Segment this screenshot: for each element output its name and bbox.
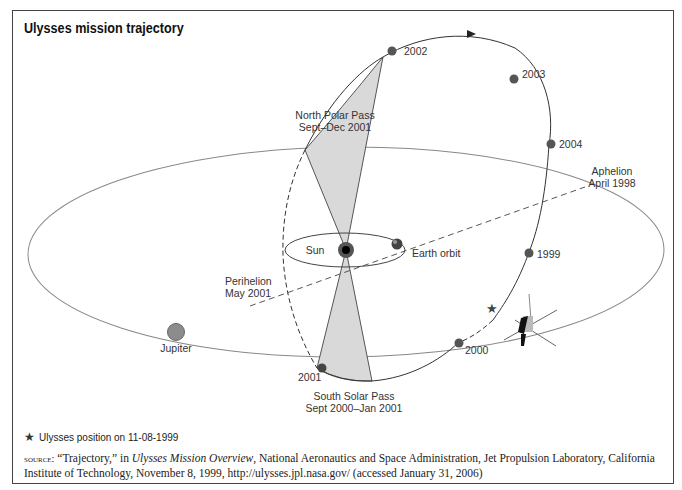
north-polar-pass-label-2: Sept–Dec 2001 bbox=[299, 121, 372, 133]
perihelion-label-2: May 2001 bbox=[225, 287, 271, 299]
year-label-2001: 2001 bbox=[298, 371, 322, 383]
earth-highlight bbox=[393, 240, 397, 244]
year-label-2000: 2000 bbox=[465, 344, 489, 356]
south-solar-pass-label-2: Sept 2000–Jan 2001 bbox=[306, 402, 403, 414]
year-marker-2004 bbox=[547, 140, 556, 149]
jupiter-icon bbox=[168, 324, 185, 341]
south-solar-pass-wedge bbox=[317, 250, 372, 381]
legend: ★ Ulysses position on 11-08-1999 bbox=[24, 430, 178, 444]
source-title: Ulysses Mission Overview bbox=[132, 452, 253, 464]
earth-icon bbox=[392, 239, 403, 250]
year-marker-2000 bbox=[455, 339, 464, 348]
earth-orbit-label: Earth orbit bbox=[412, 247, 461, 259]
south-solar-pass-label-1: South Solar Pass bbox=[313, 390, 394, 402]
trajectory-diagram: ★ North Polar Pass Sept–Dec 2001 South S… bbox=[0, 0, 682, 490]
jupiter-label: Jupiter bbox=[160, 342, 192, 354]
year-label-2003: 2003 bbox=[522, 68, 546, 80]
north-polar-pass-wedge bbox=[305, 57, 383, 250]
year-marker-2002 bbox=[388, 47, 397, 56]
year-label-2002: 2002 bbox=[404, 45, 428, 57]
north-polar-pass-label-1: North Polar Pass bbox=[295, 109, 374, 121]
source-part1: “Trajectory,” in bbox=[54, 452, 131, 464]
aphelion-label-1: Aphelion bbox=[592, 165, 633, 177]
year-label-1999: 1999 bbox=[537, 248, 561, 260]
legend-star-icon: ★ bbox=[24, 430, 35, 444]
ulysses-position-star-icon: ★ bbox=[486, 301, 498, 316]
aphelion-label-2: April 1998 bbox=[588, 177, 635, 189]
legend-text: Ulysses position on 11-08-1999 bbox=[39, 432, 178, 443]
sun-label: Sun bbox=[306, 244, 325, 256]
source-prefix: source: bbox=[24, 453, 54, 464]
year-marker-1999 bbox=[525, 249, 534, 258]
ulysses-spacecraft-icon bbox=[504, 294, 557, 346]
trajectory-dashed-right bbox=[458, 320, 493, 343]
year-marker-2003 bbox=[510, 75, 519, 84]
trajectory-dashed-left bbox=[283, 150, 317, 368]
perihelion-label-1: Perihelion bbox=[225, 275, 272, 287]
year-label-2004: 2004 bbox=[559, 138, 583, 150]
sun-core bbox=[342, 246, 350, 254]
source-citation: source: “Trajectory,” in Ulysses Mission… bbox=[24, 451, 664, 480]
